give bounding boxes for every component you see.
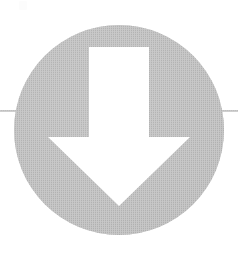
image-canvas: Gray circle with white downward arrow (0, 0, 238, 258)
down-arrow-figure: Gray circle with white downward arrow (0, 0, 238, 258)
scan-speck-artifact (19, 1, 27, 10)
